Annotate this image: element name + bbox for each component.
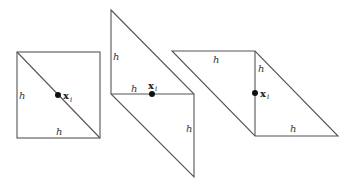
point-subscript: i: [267, 93, 269, 101]
label-middle-edge: h: [131, 83, 137, 94]
point-subscript: i: [155, 85, 157, 93]
point-xi: [55, 92, 61, 98]
label-top-edge: h: [213, 54, 219, 65]
label-left-edge: h: [19, 90, 25, 101]
label-lower-right-edge: h: [186, 123, 192, 134]
label-middle-vertical-edge: h: [258, 63, 264, 74]
point-subscript: i: [70, 96, 72, 104]
label-bottom-edge: h: [56, 126, 62, 137]
panel-vertical-parallelogram: h h h x i: [111, 10, 194, 177]
point-label: x: [148, 80, 155, 91]
label-upper-left-edge: h: [113, 51, 119, 62]
point-xi: [252, 90, 258, 96]
panel-square: h h x i: [17, 52, 100, 138]
point-label: x: [260, 88, 267, 99]
label-bottom-edge: h: [290, 123, 296, 134]
diagram-canvas: h h x i h h h x i h h h x i: [0, 0, 354, 195]
point-label: x: [63, 90, 70, 101]
panel-horizontal-parallelogram: h h h x i: [172, 51, 338, 136]
